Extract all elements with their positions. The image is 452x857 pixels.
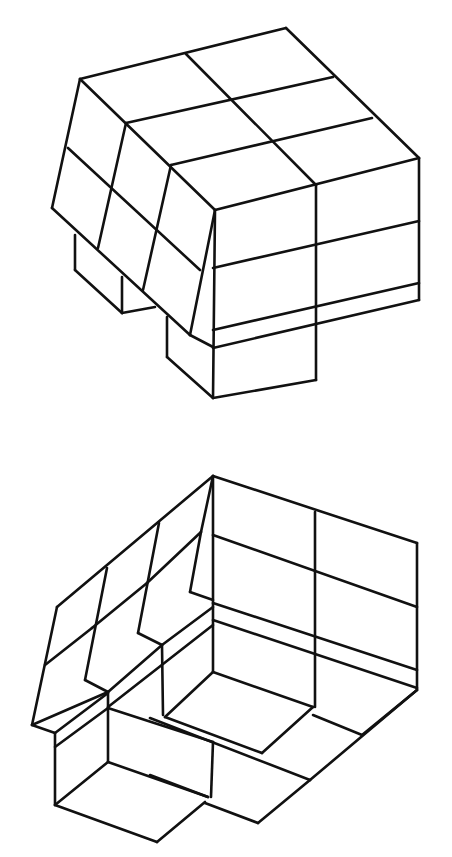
cube-edge-line bbox=[162, 645, 163, 715]
diagram-canvas bbox=[0, 0, 452, 857]
background bbox=[0, 0, 452, 857]
cube-line-drawing bbox=[0, 0, 452, 857]
